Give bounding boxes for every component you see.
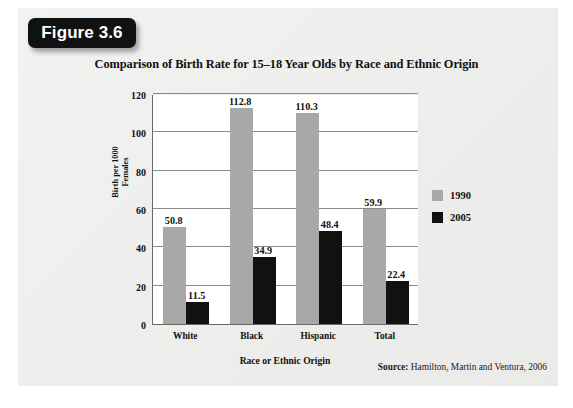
y-axis-tick-label: 120 [112,90,146,101]
legend-item-2005: 2005 [432,212,471,223]
figure-number-badge: Figure 3.6 [28,18,136,48]
bar-value-white-1990: 50.8 [165,215,183,226]
bar-value-hispanic-1990: 110.3 [296,101,318,112]
legend-swatch-2005 [432,212,443,223]
category-label-total: Total [375,331,396,341]
bar-total-1990 [363,209,386,324]
y-axis-tick-label: 80 [112,166,146,177]
bar-value-black-2005: 34.9 [254,245,272,256]
legend-label-1990: 1990 [450,190,471,201]
y-axis-tick-label: 20 [112,281,146,292]
bar-black-2005 [253,257,276,324]
legend-label-2005: 2005 [450,212,471,223]
gridline [153,170,418,171]
bar-hispanic-2005 [319,231,342,324]
gridline [153,131,418,132]
bar-value-hispanic-2005: 48.4 [321,219,339,230]
bar-value-black-1990: 112.8 [229,96,251,107]
chart-legend: 19902005 [432,190,471,234]
legend-swatch-1990 [432,190,443,201]
gridline [153,93,418,94]
category-label-hispanic: Hispanic [301,331,336,341]
bar-black-1990 [230,108,253,324]
category-label-white: White [173,331,197,341]
bar-value-white-2005: 11.5 [188,290,205,301]
x-axis-title: Race or Ethnic Origin [152,355,418,366]
bar-value-total-2005: 22.4 [387,269,405,280]
figure-page: Figure 3.6 Comparison of Birth Rate for … [0,0,573,408]
bar-total-2005 [386,281,409,324]
y-axis-tick-label: 40 [112,243,146,254]
y-axis-tick-label: 60 [112,205,146,216]
chart-title: Comparison of Birth Rate for 15–18 Year … [0,57,573,72]
bar-value-total-1990: 59.9 [364,197,382,208]
figure-number-label: Figure 3.6 [41,23,122,43]
bar-hispanic-1990 [296,113,319,324]
bar-white-1990 [163,227,186,324]
source-text: Hamilton, Martin and Ventura, 2006 [408,362,547,372]
y-axis-tick-label: 100 [112,128,146,139]
legend-item-1990: 1990 [432,190,471,201]
y-axis-tick-label: 0 [112,320,146,331]
bar-white-2005 [186,302,209,324]
category-label-black: Black [240,331,263,341]
